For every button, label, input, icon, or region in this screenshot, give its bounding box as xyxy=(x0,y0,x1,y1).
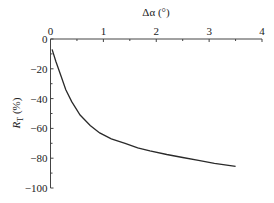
x-tick-label: 1 xyxy=(101,25,107,37)
x-axis-label: Δα (°) xyxy=(142,6,170,19)
y-tick-label: −100 xyxy=(25,182,48,194)
y-axis-label: RT (%) xyxy=(10,97,25,129)
x-tick-label: 3 xyxy=(206,25,212,37)
chart: Δα (°) 01234 0−20−40−60−80−100 RT (%) xyxy=(0,0,274,203)
x-axis: 01234 xyxy=(48,25,266,42)
y-tick-label: −20 xyxy=(30,63,48,75)
x-tick-label: 0 xyxy=(48,25,54,37)
y-tick-label: 0 xyxy=(42,33,48,45)
y-tick-label: −60 xyxy=(30,122,48,134)
x-tick-label: 4 xyxy=(259,25,265,37)
y-tick-label: −40 xyxy=(30,93,48,105)
x-tick-label: 2 xyxy=(154,25,160,37)
data-line xyxy=(52,49,236,166)
y-tick-label: −80 xyxy=(30,152,48,164)
y-axis: 0−20−40−60−80−100 xyxy=(25,33,54,194)
